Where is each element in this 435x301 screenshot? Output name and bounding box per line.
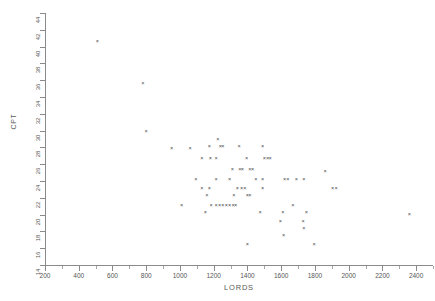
data-point: [312, 242, 317, 247]
x-tick-mark: [315, 266, 316, 271]
y-tick-label: 36: [35, 79, 41, 95]
x-tick-minor: [163, 266, 164, 269]
x-tick-minor: [366, 266, 367, 269]
data-point: [323, 169, 328, 174]
data-point: [244, 156, 249, 161]
data-point: [220, 144, 225, 149]
data-point: [231, 193, 236, 198]
data-point: [230, 167, 235, 172]
x-tick-mark: [45, 266, 46, 271]
data-point: [199, 156, 204, 161]
data-point: [204, 193, 209, 198]
x-tick-mark: [112, 266, 113, 271]
data-point: [260, 186, 265, 191]
y-tick-label: 38: [35, 62, 41, 78]
x-tick-label: 2400: [409, 272, 423, 279]
x-tick-label: 1200: [206, 272, 220, 279]
x-tick-mark: [146, 266, 147, 271]
x-tick-mark: [247, 266, 248, 271]
x-tick-minor: [399, 266, 400, 269]
data-point: [253, 177, 258, 182]
x-tick-label: 1000: [173, 272, 187, 279]
x-tick-label: 1600: [274, 272, 288, 279]
data-point: [209, 203, 214, 208]
x-tick-label: 400: [73, 272, 84, 279]
y-axis-line: [45, 13, 46, 265]
data-point: [231, 203, 236, 208]
y-tick-label: 32: [35, 113, 41, 129]
data-point: [235, 186, 240, 191]
data-point: [214, 177, 219, 182]
x-axis-title: LORDS: [224, 283, 254, 292]
y-tick-label: 26: [35, 163, 41, 179]
data-point: [218, 144, 223, 149]
data-point: [217, 203, 222, 208]
x-tick-mark: [382, 266, 383, 271]
y-tick-label: 22: [35, 197, 41, 213]
data-point: [227, 177, 232, 182]
x-tick-label: 200: [40, 272, 51, 279]
x-tick-label: 800: [141, 272, 152, 279]
y-tick-label: 24: [35, 180, 41, 196]
data-point: [260, 177, 265, 182]
x-tick-minor: [62, 266, 63, 269]
x-tick-label: 600: [107, 272, 118, 279]
y-tick-label: 34: [35, 96, 41, 112]
data-point: [233, 203, 238, 208]
data-point: [250, 167, 255, 172]
data-point: [188, 146, 193, 151]
data-point: [237, 144, 242, 149]
data-point: [144, 129, 149, 134]
x-tick-minor: [332, 266, 333, 269]
y-tick-label: 28: [35, 146, 41, 162]
data-point: [334, 186, 339, 191]
data-point: [214, 203, 219, 208]
x-tick-label: 1400: [240, 272, 254, 279]
data-points-layer: [0, 0, 435, 301]
data-point: [193, 177, 198, 182]
y-tick-label: 16: [35, 247, 41, 263]
data-point: [239, 186, 244, 191]
data-point: [169, 146, 174, 151]
data-point: [242, 186, 247, 191]
data-point: [227, 203, 232, 208]
data-point: [278, 219, 283, 224]
data-point: [237, 167, 242, 172]
y-tick-label: 40: [35, 46, 41, 62]
data-point: [220, 203, 225, 208]
data-point: [258, 210, 263, 215]
data-point: [95, 39, 100, 44]
data-point: [262, 156, 267, 161]
x-tick-minor: [197, 266, 198, 269]
data-point: [301, 177, 306, 182]
y-tick-label: 30: [35, 130, 41, 146]
data-point: [245, 193, 250, 198]
x-axis-line: [45, 265, 433, 266]
x-tick-label: 2200: [375, 272, 389, 279]
x-tick-minor: [298, 266, 299, 269]
x-tick-minor: [264, 266, 265, 269]
data-point: [285, 177, 290, 182]
scatter-plot-figure: 14161820222426283032343638404244 2004006…: [0, 0, 435, 301]
x-tick-label: 1800: [308, 272, 322, 279]
data-point: [407, 212, 412, 217]
x-tick-minor: [231, 266, 232, 269]
data-point: [207, 144, 212, 149]
x-tick-minor: [96, 266, 97, 269]
data-point: [265, 156, 270, 161]
data-point: [199, 186, 204, 191]
data-point: [179, 203, 184, 208]
y-tick-label: 42: [35, 29, 41, 45]
x-tick-mark: [416, 266, 417, 271]
data-point: [301, 219, 306, 224]
x-tick-minor: [129, 266, 130, 269]
x-tick-mark: [180, 266, 181, 271]
data-point: [281, 233, 286, 238]
data-point: [203, 210, 208, 215]
data-point: [224, 203, 229, 208]
data-point: [214, 156, 219, 161]
data-point: [304, 210, 309, 215]
data-point: [268, 156, 273, 161]
data-point: [330, 186, 335, 191]
x-tick-mark: [349, 266, 350, 271]
